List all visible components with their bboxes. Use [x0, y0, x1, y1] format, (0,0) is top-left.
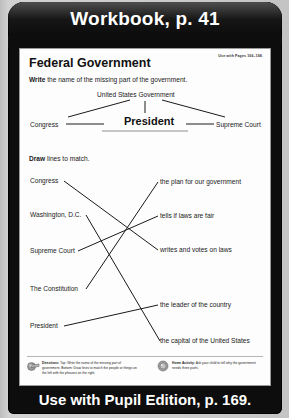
- match-right-item-plan-for-government[interactable]: the plan for our government: [160, 178, 241, 185]
- match-right-item-leader-of-country[interactable]: the leader of the country: [160, 301, 231, 308]
- screenshot-frame: Workbook, p. 41 Use with Pupil Edition, …: [0, 0, 289, 418]
- directions-label: Directions:: [42, 361, 59, 365]
- worksheet-page: Federal Government Use with Pages 166–16…: [20, 49, 270, 385]
- home-activity-note: Home Activity: Ask your child to tell wh…: [172, 361, 264, 371]
- match-left-item-supreme-court[interactable]: Supreme Court: [30, 247, 75, 254]
- pupil-edition-banner: Use with Pupil Edition, p. 169.: [8, 391, 282, 408]
- match-right-item-capital-of-us[interactable]: the capital of the United States: [160, 337, 250, 344]
- footer-divider: [27, 356, 263, 357]
- home-activity-label: Home Activity:: [172, 361, 195, 365]
- pointing-hand-icon: [27, 360, 40, 372]
- match-right-item-writes-votes-laws[interactable]: writes and votes on laws: [160, 246, 232, 253]
- match-left-item-congress[interactable]: Congress: [30, 177, 58, 184]
- directions-note: Directions: Top: Write the name of the m…: [42, 361, 140, 375]
- workbook-page-banner: Workbook, p. 41: [8, 8, 282, 30]
- match-left-item-washington-dc[interactable]: Washington, D.C.: [30, 211, 81, 218]
- home-activity-icon: [157, 360, 170, 372]
- match-right-item-tells-if-laws-fair[interactable]: tells if laws are fair: [160, 212, 214, 219]
- match-left-item-the-constitution[interactable]: The Constitution: [30, 285, 78, 292]
- match-left-item-president[interactable]: President: [30, 322, 58, 329]
